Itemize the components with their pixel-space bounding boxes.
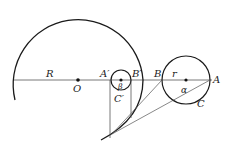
label-R: R (45, 68, 54, 79)
point-alpha-center (184, 78, 187, 81)
diagram-canvas: R O A′ B′ β C′ B r A α C (0, 0, 227, 162)
label-C: C (197, 98, 205, 109)
label-A-prime: A′ (99, 68, 110, 79)
label-A: A (212, 74, 220, 85)
point-O (76, 78, 80, 82)
label-B: B (153, 68, 161, 79)
geometry-diagram: R O A′ B′ β C′ B r A α C (0, 0, 227, 162)
label-C-prime: C′ (114, 93, 125, 104)
label-beta: β (117, 82, 123, 91)
label-B-prime: B′ (131, 68, 142, 79)
label-alpha: α (181, 85, 187, 95)
label-O: O (73, 83, 81, 94)
label-r: r (172, 68, 178, 79)
